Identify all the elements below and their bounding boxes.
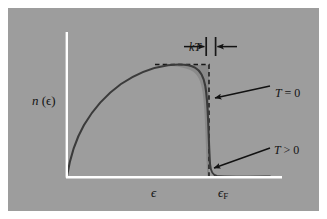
figure-root: n (ϵ) ϵ ϵF kT T = 0 T > 0 — [0, 0, 327, 219]
t-positive-value: 0 — [293, 143, 299, 157]
x-axis-label: ϵ — [151, 186, 156, 199]
t-positive-annotation-label: T > 0 — [274, 144, 299, 156]
t-zero-annotation-label: T = 0 — [275, 87, 300, 99]
t-positive-variable: T — [274, 143, 280, 157]
t-zero-relation: = — [284, 86, 291, 100]
t-zero-variable: T — [275, 86, 281, 100]
t-positive-leader-arrow — [214, 148, 270, 168]
plot-panel: n (ϵ) ϵ ϵF kT T = 0 T > 0 — [8, 8, 319, 211]
y-axis-label: n (ϵ) — [32, 94, 56, 107]
shaded-difference-region — [155, 65, 209, 176]
kt-annotation-label: kT — [189, 41, 201, 53]
t-zero-leader-arrow — [215, 86, 270, 98]
fermi-curve-t-positive — [67, 64, 270, 176]
t-positive-relation: > — [283, 143, 290, 157]
y-axis-label-symbol: n — [32, 93, 39, 108]
x-axis-fermi-label: ϵF — [218, 186, 228, 201]
fermi-subscript: F — [223, 191, 228, 201]
plot-canvas — [8, 8, 319, 211]
t-zero-value: 0 — [294, 86, 300, 100]
y-axis-label-argument: (ϵ) — [42, 93, 56, 108]
